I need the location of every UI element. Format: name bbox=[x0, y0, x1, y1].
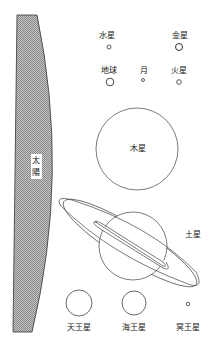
jupiter-label: 木星 bbox=[130, 143, 146, 153]
planet-saturn: 土星 bbox=[55, 187, 205, 299]
planet-pluto: 冥王星 bbox=[176, 302, 200, 332]
mars-label: 火星 bbox=[171, 66, 187, 75]
sun-label-char-1: 太 bbox=[32, 155, 40, 165]
planet-neptune: 海王星 bbox=[122, 291, 146, 332]
planet-mercury: 水星 bbox=[99, 30, 115, 49]
planet-venus: 金星 bbox=[172, 30, 188, 51]
sun: 太 陽 bbox=[13, 15, 52, 332]
solar-system-size-diagram: 太 陽 水星 金星 地球 月 火星 木星 土星 bbox=[0, 0, 217, 348]
sun-label-char-2: 陽 bbox=[32, 168, 40, 177]
neptune-label: 海王星 bbox=[122, 322, 146, 332]
uranus-circle bbox=[66, 290, 92, 316]
moon-label: 月 bbox=[140, 66, 148, 75]
planet-uranus: 天王星 bbox=[66, 290, 92, 332]
uranus-label: 天王星 bbox=[67, 323, 91, 332]
moon: 月 bbox=[140, 66, 148, 82]
moon-circle bbox=[142, 79, 145, 82]
planet-jupiter: 木星 bbox=[96, 108, 178, 190]
mercury-label: 水星 bbox=[99, 30, 115, 40]
pluto-circle bbox=[186, 302, 190, 306]
planet-earth: 地球 bbox=[101, 65, 117, 86]
earth-circle bbox=[106, 78, 114, 86]
mars-circle bbox=[177, 80, 182, 85]
saturn-label: 土星 bbox=[185, 229, 201, 239]
earth-label: 地球 bbox=[101, 65, 117, 75]
venus-label: 金星 bbox=[172, 30, 188, 40]
neptune-circle bbox=[122, 291, 146, 315]
planet-mars: 火星 bbox=[171, 66, 187, 84]
venus-circle bbox=[176, 44, 183, 51]
mercury-circle bbox=[107, 45, 111, 49]
pluto-label: 冥王星 bbox=[176, 323, 200, 332]
